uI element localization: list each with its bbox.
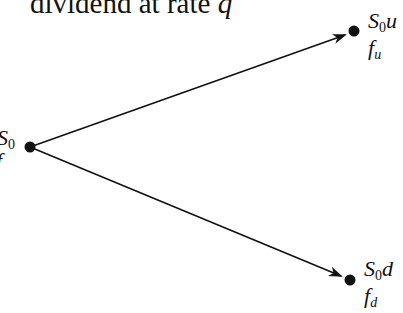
down-branch-arrow: [30, 147, 341, 276]
root-derivative-label: f: [0, 150, 2, 172]
down-derivative-label: fd: [364, 285, 377, 307]
up-derivative-label: fu: [368, 37, 381, 59]
root-stock-label: S0: [0, 127, 15, 149]
down-node-dot: [345, 275, 356, 286]
up-branch-arrow: [30, 35, 345, 147]
up-stock-label: S0u: [368, 10, 397, 32]
root-node-dot: [25, 142, 36, 153]
up-node-dot: [349, 26, 360, 37]
binomial-tree: [0, 0, 403, 313]
down-stock-label: S0d: [364, 258, 393, 280]
